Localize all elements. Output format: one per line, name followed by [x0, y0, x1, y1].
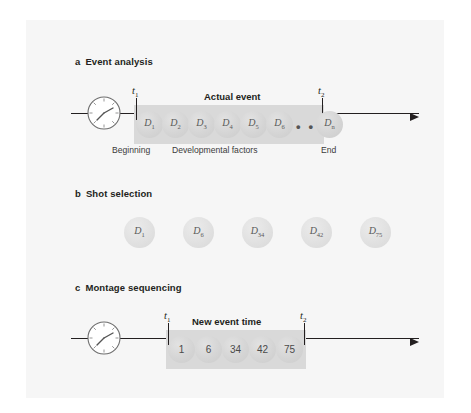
disc-b-6: D6: [183, 217, 214, 248]
band-title-a: Actual event: [204, 91, 261, 102]
disc-a-n: Dn: [316, 111, 343, 138]
disc-a-5-label: D5: [248, 118, 258, 131]
section-header-b: bShot selection: [75, 188, 152, 199]
disc-b-6-label: D6: [193, 226, 203, 239]
disc-b-42-label: D42: [310, 226, 324, 239]
disc-a-n-label: Dn: [324, 118, 334, 131]
section-letter-b: b: [75, 188, 81, 199]
disc-b-34-label: D34: [251, 226, 265, 239]
disc-a-6-label: D6: [274, 118, 284, 131]
disc-c-34-label: 34: [230, 345, 241, 355]
arrow-right-icon-c: [410, 338, 419, 346]
disc-a-2-label: D2: [170, 118, 180, 131]
t1-label-a: t1: [132, 85, 138, 99]
caption-developmental-factors: Developmental factors: [172, 145, 258, 155]
section-header-c: cMontage sequencing: [75, 282, 182, 293]
disc-b-1-label: D1: [134, 226, 144, 239]
disc-a-4: D4: [214, 111, 241, 138]
section-header-a: aEvent analysis: [75, 56, 153, 67]
t2-label-c: t2: [300, 310, 306, 324]
disc-b-75: D75: [360, 217, 391, 248]
caption-beginning: Beginning: [112, 145, 150, 155]
arrow-right-icon-a: [410, 113, 419, 121]
t2-label-a: t2: [318, 85, 324, 99]
t1-label-c: t1: [164, 310, 170, 324]
section-title-b: Shot selection: [86, 188, 152, 199]
section-letter-c: c: [75, 282, 80, 293]
clock-icon-a: [86, 95, 122, 131]
disc-a-6: D6: [266, 111, 293, 138]
t1-tick-a: [136, 98, 137, 120]
disc-b-42: D42: [301, 217, 332, 248]
disc-a-3-label: D3: [196, 118, 206, 131]
disc-c-6-label: 6: [206, 345, 212, 355]
disc-a-1-label: D1: [144, 118, 154, 131]
disc-b-1: D1: [124, 217, 155, 248]
disc-a-3: D3: [188, 111, 215, 138]
disc-b-75-label: D75: [369, 226, 383, 239]
disc-c-42-label: 42: [257, 345, 268, 355]
band-title-c: New event time: [192, 316, 261, 327]
disc-c-6: 6: [195, 336, 222, 363]
disc-b-34: D34: [242, 217, 273, 248]
disc-c-1: 1: [168, 336, 195, 363]
caption-end: End: [321, 145, 336, 155]
section-title-a: Event analysis: [85, 56, 152, 67]
disc-c-34: 34: [222, 336, 249, 363]
disc-c-1-label: 1: [179, 345, 185, 355]
disc-a-4-label: D4: [222, 118, 232, 131]
t1-tick-c: [168, 323, 169, 345]
section-letter-a: a: [75, 56, 80, 67]
disc-a-2: D2: [162, 111, 189, 138]
t2-tick-c: [304, 323, 305, 345]
disc-c-75: 75: [276, 336, 303, 363]
clock-icon-c: [86, 320, 122, 356]
disc-a-1: D1: [136, 111, 163, 138]
section-title-c: Montage sequencing: [85, 282, 181, 293]
figure-panel: aEvent analysis Actual event t1 t2 D1: [26, 20, 444, 398]
disc-a-5: D5: [240, 111, 267, 138]
disc-c-75-label: 75: [284, 345, 295, 355]
disc-c-42: 42: [249, 336, 276, 363]
